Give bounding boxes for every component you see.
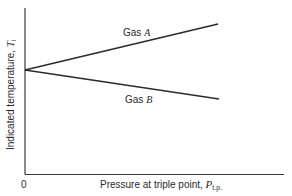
gas-b-label: Gas B bbox=[125, 94, 152, 105]
gas-a-line bbox=[25, 24, 218, 70]
gas-b-line bbox=[25, 70, 219, 99]
y-axis-label: Indicated temperature, Ti bbox=[4, 39, 17, 150]
diagram-canvas: Gas A Gas B 0 Pressure at triple point, … bbox=[0, 0, 292, 196]
origin-label: 0 bbox=[21, 179, 27, 190]
gas-a-label: Gas A bbox=[123, 27, 151, 38]
x-axis-label: Pressure at triple point, Pt.p. bbox=[100, 178, 222, 192]
temperature-vs-pressure-diagram: Gas A Gas B 0 Pressure at triple point, … bbox=[0, 0, 292, 196]
